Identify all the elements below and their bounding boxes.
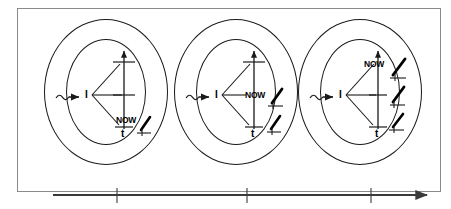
now-label: NOW	[245, 91, 265, 100]
self-label: I	[85, 90, 88, 100]
now-label: NOW	[364, 60, 384, 69]
snapshot-panel-1: I NOW t	[36, 17, 176, 167]
event-mark	[390, 87, 405, 108]
now-label: NOW	[116, 116, 136, 125]
panel-2-graphics	[166, 17, 306, 167]
timeline-axis	[51, 185, 441, 205]
event-mark	[267, 116, 281, 135]
event-mark	[390, 59, 406, 81]
time-axis-label: t	[121, 129, 124, 139]
self-label: I	[215, 90, 218, 100]
figure-frame: I NOW t	[17, 8, 441, 192]
time-axis-label: t	[375, 129, 378, 139]
snapshot-panel-2: I NOW t	[166, 17, 306, 167]
panel-3-graphics	[290, 17, 430, 167]
diagram-canvas: I NOW t	[0, 0, 451, 209]
self-label: I	[339, 90, 342, 100]
event-mark	[389, 114, 404, 133]
panel-1-graphics	[36, 17, 176, 167]
event-mark	[137, 117, 151, 136]
time-axis-label: t	[251, 129, 254, 139]
event-mark	[268, 89, 283, 109]
snapshot-panel-3: I NOW t	[290, 17, 430, 167]
